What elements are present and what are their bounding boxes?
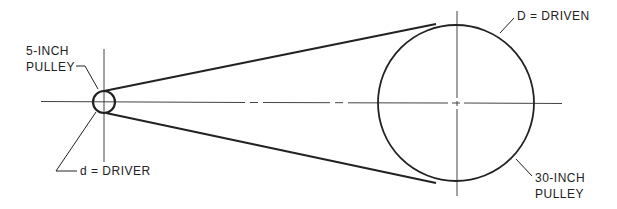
horizontal-centerline: [41, 102, 562, 104]
label-driven: D = DRIVEN: [517, 9, 590, 24]
label-pulley-large: PULLEY: [535, 187, 584, 202]
belt-lower: [106, 113, 436, 183]
leader-driver: [56, 112, 96, 171]
label-30-inch: 30-INCH: [535, 171, 585, 186]
label-5-inch: 5-INCH: [26, 44, 69, 59]
belt-drive-diagram: 5-INCH PULLEY d = DRIVER D = DRIVEN 30-I…: [0, 0, 617, 209]
leader-driven: [500, 18, 514, 33]
label-driver: d = DRIVER: [80, 164, 151, 179]
leader-large-pulley: [516, 159, 532, 176]
leader-small-pulley: [76, 66, 98, 89]
label-pulley-small: PULLEY: [26, 60, 75, 75]
belt-upper: [104, 24, 436, 91]
